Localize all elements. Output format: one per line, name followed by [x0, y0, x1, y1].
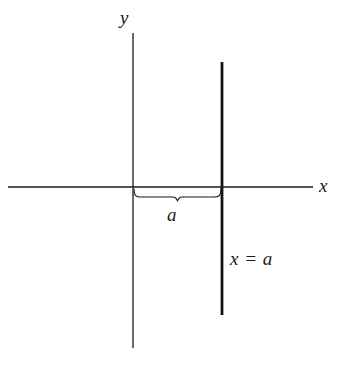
line-equation-label: x = a [230, 249, 273, 268]
figure-canvas: y x a x = a [0, 0, 345, 367]
brace-measure-label: a [167, 205, 177, 224]
x-axis-label: x [319, 176, 327, 195]
graph-svg [0, 0, 345, 367]
y-axis-label: y [120, 8, 128, 27]
measure-brace [134, 189, 221, 201]
